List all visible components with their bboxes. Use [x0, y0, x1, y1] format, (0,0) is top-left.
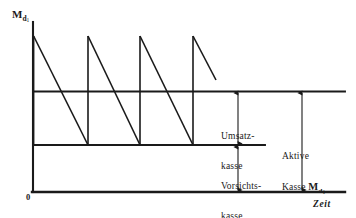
umsatzkasse-line-1: Umsatz- [221, 131, 255, 141]
sawtooth-fall-2 [88, 36, 140, 145]
aktive-kasse-line-1: Aktive [282, 151, 325, 161]
aktive-kasse-prefix: Kasse [282, 182, 308, 192]
vorsichtskasse-annotation: Vorsichts- kasse [221, 160, 261, 218]
sawtooth-series [34, 36, 216, 145]
cash-holding-sawtooth-figure: Md1 0 Zeit Umsatz- kasse Vorsichts- kass… [0, 0, 356, 218]
aktive-kasse-annotation: Aktive Kasse Md1 [282, 130, 325, 217]
vorsichtskasse-line-2: kasse [221, 211, 261, 218]
aktive-kasse-subsub: 1 [322, 189, 325, 195]
origin-label: 0 [26, 193, 30, 202]
y-axis-label-subsub: 1 [27, 17, 30, 23]
sawtooth-fall-1 [34, 36, 88, 145]
y-axis-label-main: M [12, 8, 22, 20]
sawtooth-fall-3 [140, 36, 193, 145]
sawtooth-fall-4 [193, 36, 216, 80]
y-axis-label: Md1 [12, 9, 29, 24]
vorsichtskasse-line-1: Vorsichts- [221, 181, 261, 191]
aktive-kasse-m-term: M [308, 181, 318, 192]
aktive-kasse-line-2: Kasse Md1 [282, 181, 325, 196]
